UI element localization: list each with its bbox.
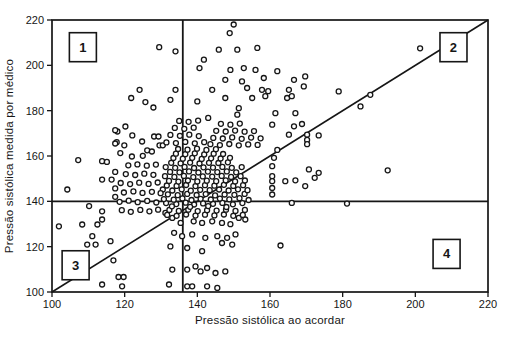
scatter-point	[204, 147, 209, 152]
scatter-point	[292, 77, 297, 82]
scatter-point	[177, 133, 182, 138]
scatter-point	[214, 208, 219, 213]
scatter-point	[181, 173, 186, 178]
scatter-point	[123, 124, 128, 129]
scatter-point	[56, 224, 61, 229]
scatter-point	[205, 266, 210, 271]
scatter-point	[226, 188, 231, 193]
scatter-point	[185, 284, 190, 289]
scatter-point	[168, 169, 173, 174]
scatter-point	[289, 200, 294, 205]
scatter-point	[138, 207, 143, 212]
scatter-point	[145, 198, 150, 203]
scatter-point	[242, 178, 247, 183]
x-tick-label: 220	[479, 298, 497, 310]
y-tick-label: 200	[26, 59, 44, 71]
scatter-point	[208, 197, 213, 202]
scatter-point	[109, 177, 114, 182]
scatter-point	[189, 198, 194, 203]
scatter-point	[228, 155, 233, 160]
scatter-point	[149, 149, 154, 154]
scatter-point	[167, 178, 172, 183]
scatter-point	[116, 275, 121, 280]
scatter-point	[236, 187, 241, 192]
scatter-point	[182, 126, 187, 131]
scatter-point	[211, 165, 216, 170]
scatter-point	[195, 146, 200, 151]
scatter-point	[169, 204, 174, 209]
scatter-point	[203, 235, 208, 240]
scatter-point	[249, 135, 254, 140]
scatter-point	[227, 142, 232, 147]
scatter-point	[215, 170, 220, 175]
scatter-point	[228, 222, 233, 227]
scatter-point	[146, 181, 151, 186]
scatter-point	[210, 174, 215, 179]
scatter-point	[179, 187, 184, 192]
scatter-point	[157, 45, 162, 50]
scatter-point	[217, 196, 222, 201]
scatter-point	[144, 163, 149, 168]
scatter-point	[305, 142, 310, 147]
scatter-point	[206, 115, 211, 120]
scatter-point	[236, 106, 241, 111]
scatter-point	[178, 220, 183, 225]
scatter-point	[231, 22, 236, 27]
scatter-point	[113, 194, 118, 199]
scatter-point	[111, 258, 116, 263]
scatter-point	[270, 179, 275, 184]
scatter-point	[239, 136, 244, 141]
scatter-point	[191, 219, 196, 224]
scatter-point	[80, 222, 85, 227]
scatter-point	[185, 147, 190, 152]
scatter-point	[223, 269, 228, 274]
x-tick-label: 140	[188, 298, 206, 310]
scatter-point	[222, 192, 227, 197]
x-tick-label: 100	[43, 298, 61, 310]
scatter-point	[223, 129, 228, 134]
scatter-point	[213, 193, 218, 198]
scatter-point	[237, 196, 242, 201]
scatter-point	[316, 170, 321, 175]
scatter-point	[85, 242, 90, 247]
scatter-point	[196, 118, 201, 123]
scatter-point	[303, 184, 308, 189]
scatter-point	[135, 200, 140, 205]
scatter-point	[149, 189, 154, 194]
scatter-point	[204, 178, 209, 183]
scatter-point	[216, 47, 221, 52]
scatter-point	[229, 174, 234, 179]
scatter-point	[172, 125, 177, 130]
scatter-point	[201, 57, 206, 62]
scatter-point	[185, 267, 190, 272]
scatter-point	[190, 232, 195, 237]
scatter-point	[165, 212, 170, 217]
scatter-point	[223, 178, 228, 183]
scatter-point	[235, 112, 240, 117]
quadrant-label: 2	[450, 40, 457, 55]
scatter-point	[198, 269, 203, 274]
quadrant-label: 3	[72, 258, 79, 273]
scatter-point	[118, 151, 123, 156]
scatter-point	[133, 173, 138, 178]
scatter-point	[173, 141, 178, 146]
scatter-point	[418, 46, 423, 51]
scatter-point	[154, 200, 159, 205]
scatter-point	[234, 170, 239, 175]
scatter-point	[194, 193, 199, 198]
scatter-point	[176, 208, 181, 213]
scatter-point	[200, 174, 205, 179]
scatter-point	[270, 186, 275, 191]
scatter-point	[300, 122, 305, 127]
scatter-point	[192, 141, 197, 146]
scatter-point	[156, 134, 161, 139]
scatter-point	[241, 66, 246, 71]
scatter-point	[185, 246, 190, 251]
scatter-point	[215, 285, 220, 290]
scatter-point	[227, 197, 232, 202]
scatter-point	[275, 69, 280, 74]
scatter-point	[230, 135, 235, 140]
scatter-point	[200, 249, 205, 254]
scatter-point	[128, 209, 133, 214]
scatter-point	[210, 219, 215, 224]
